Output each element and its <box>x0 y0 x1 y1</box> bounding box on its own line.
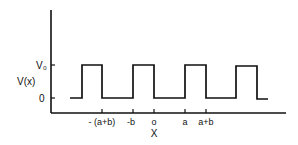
square-wave <box>70 65 268 99</box>
x-tick-label: a <box>182 117 187 127</box>
x-tick-label: - (a+b) <box>89 117 116 127</box>
y-axis-label: V(x) <box>17 76 35 87</box>
square-wave-diagram: V₀ V(x) 0 - (a+b) -b o a a+b X <box>0 0 298 145</box>
diagram-canvas: V₀ V(x) 0 - (a+b) -b o a a+b X <box>0 0 298 145</box>
y-level-label-zero: 0 <box>39 93 45 104</box>
x-tick-label: a+b <box>198 117 213 127</box>
x-axis-label: X <box>151 128 158 139</box>
y-level-label-v0: V₀ <box>36 60 47 71</box>
x-tick-label: o <box>151 117 156 127</box>
x-tick-label: -b <box>127 117 135 127</box>
